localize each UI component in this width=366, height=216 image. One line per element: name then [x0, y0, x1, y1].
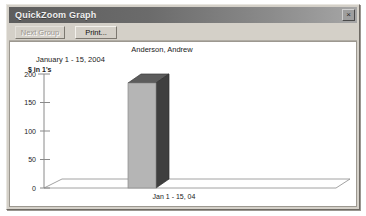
y-tick-label-150: 150 — [24, 99, 36, 106]
bar-front-face — [128, 83, 156, 188]
chart-canvas: Anderson, Andrew January 1 - 15, 2004 $ … — [9, 41, 357, 207]
y-tick-label-200: 200 — [24, 71, 36, 78]
window-titlebar[interactable]: QuickZoom Graph × — [9, 7, 357, 23]
y-tick-label-100: 100 — [24, 128, 36, 135]
bar-series-amount[interactable] — [128, 74, 169, 188]
y-tick-label-0: 0 — [32, 185, 36, 192]
desktop-background: QuickZoom Graph × Next Group Print... An… — [0, 0, 366, 216]
print-button-label: Print... — [85, 28, 107, 37]
x-category-label: Jan 1 - 15, 04 — [153, 193, 196, 200]
close-icon[interactable]: × — [342, 9, 355, 21]
graph-svg: Anderson, Andrew January 1 - 15, 2004 $ … — [10, 42, 356, 206]
report-period-label: January 1 - 15, 2004 — [36, 55, 105, 64]
bar-side-face — [156, 74, 169, 188]
chart-floor-plane — [44, 179, 350, 188]
y-tick-label-50: 50 — [28, 156, 36, 163]
report-subject-label: Anderson, Andrew — [131, 45, 193, 54]
quickzoom-graph-window: QuickZoom Graph × Next Group Print... An… — [6, 4, 360, 210]
window-toolbar: Next Group Print... — [9, 24, 357, 41]
next-group-button[interactable]: Next Group — [15, 26, 65, 39]
window-title: QuickZoom Graph — [15, 10, 97, 20]
print-button[interactable]: Print... — [75, 26, 117, 39]
